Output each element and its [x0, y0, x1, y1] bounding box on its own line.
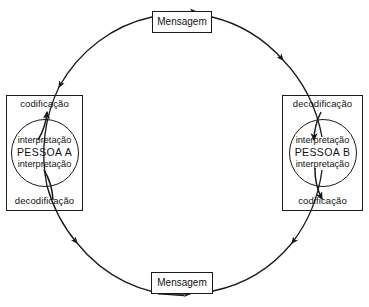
- person-b-circle-area: interpretação PESSOA B interpretação: [283, 110, 362, 195]
- person-a-circle-area: interpretação PESSOA A interpretação: [7, 110, 82, 195]
- person-b-interpretation-top: interpretação: [295, 135, 351, 147]
- person-b-box[interactable]: decodificação interpretação PESSOA B int…: [282, 95, 363, 211]
- message-bottom-label: Mensagem: [157, 277, 206, 289]
- person-b-interpretation-bottom: interpretação: [295, 159, 351, 171]
- arc-bottom-right: [213, 243, 292, 291]
- message-box-bottom[interactable]: Mensagem: [151, 272, 213, 294]
- person-b-name: PESSOA B: [295, 146, 351, 159]
- person-a-bottom-stage-label: decodificação: [15, 195, 74, 207]
- person-a-name: PESSOA A: [17, 146, 72, 159]
- person-a-box[interactable]: codificação interpretação PESSOA A inter…: [6, 95, 83, 211]
- arc-top-right: [212, 17, 283, 60]
- person-a-interpretation-top: interpretação: [17, 135, 72, 147]
- person-b-top-stage-label: decodificação: [293, 98, 352, 110]
- person-a-interpretation-bottom: interpretação: [17, 159, 72, 171]
- person-a-top-stage-label: codificação: [20, 98, 69, 110]
- person-a-circle-text: interpretação PESSOA A interpretação: [17, 135, 72, 171]
- communication-cycle-diagram: codificação interpretação PESSOA A inter…: [0, 0, 369, 307]
- message-box-top[interactable]: Mensagem: [152, 11, 212, 33]
- person-b-circle-text: interpretação PESSOA B interpretação: [295, 135, 351, 171]
- arc-left-upper: [59, 17, 152, 87]
- person-b-bottom-stage-label: codificação: [298, 195, 347, 207]
- message-top-label: Mensagem: [157, 16, 206, 28]
- outer-cycle-path: [44, 17, 322, 296]
